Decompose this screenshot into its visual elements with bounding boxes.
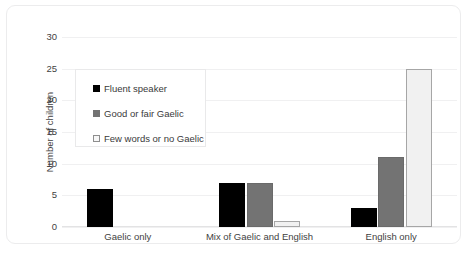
y-axis-tick-label: 20	[15, 96, 57, 106]
bar	[351, 208, 377, 227]
legend-item-label: Good or fair Gaelic	[104, 109, 184, 119]
legend-swatch-icon	[93, 85, 100, 92]
bar	[219, 183, 245, 227]
legend-item-label: Few words or no Gaelic	[104, 134, 204, 144]
legend-item: Fluent speaker	[93, 84, 167, 94]
legend-swatch-icon	[93, 135, 100, 142]
legend-swatch-icon	[93, 110, 100, 117]
x-axis-tick-label: English only	[366, 232, 417, 242]
x-axis-tick-label: Mix of Gaelic and English	[206, 232, 313, 242]
y-axis-tick-label: 10	[15, 159, 57, 169]
gridline	[62, 37, 457, 38]
bar	[87, 189, 113, 227]
bar	[406, 69, 432, 227]
y-axis-tick-label: 0	[15, 222, 57, 232]
legend-item: Good or fair Gaelic	[93, 109, 184, 119]
chart-screenshot: Number of children 051015202530 Gaelic o…	[0, 0, 469, 254]
legend-item: Few words or no Gaelic	[93, 134, 204, 144]
bar	[378, 157, 404, 227]
y-axis-tick-label: 5	[15, 191, 57, 201]
y-axis-tick-label: 30	[15, 32, 57, 42]
x-axis-tick-label: Gaelic only	[104, 232, 151, 242]
bar	[274, 221, 300, 227]
gridline	[62, 227, 457, 228]
y-axis-tick-label: 25	[15, 64, 57, 74]
x-axis-tick-labels: Gaelic onlyMix of Gaelic and EnglishEngl…	[62, 232, 457, 248]
y-axis-tick-label: 15	[15, 127, 57, 137]
legend-item-label: Fluent speaker	[104, 84, 167, 94]
chart-card: Number of children 051015202530 Gaelic o…	[6, 5, 461, 244]
y-axis-tick-labels: 051015202530	[15, 37, 57, 227]
bar	[247, 183, 273, 227]
chart-legend: Fluent speakerGood or fair GaelicFew wor…	[75, 69, 206, 147]
